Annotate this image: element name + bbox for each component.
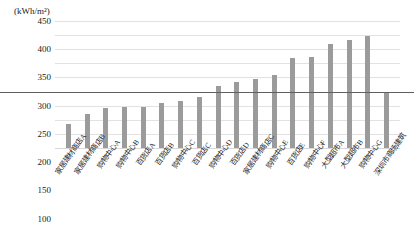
x-axis-label-slot: 大型超市B: [340, 150, 359, 232]
x-axis-label-slot: 百货店E: [284, 150, 303, 232]
bar[interactable]: [178, 101, 183, 148]
x-axis-label-slot: 购物中心C: [171, 150, 190, 232]
bar-slot: [209, 21, 228, 148]
bar-slot: [359, 21, 378, 148]
bars-group: [55, 21, 400, 148]
bar[interactable]: [216, 86, 221, 148]
bar-slot: [190, 21, 209, 148]
bar[interactable]: [85, 114, 90, 148]
x-axis-label-slot: 百货店A: [134, 150, 153, 232]
x-axis-label-slot: 购物中心D: [209, 150, 228, 232]
bar[interactable]: [103, 108, 108, 148]
bar[interactable]: [290, 58, 295, 148]
x-axis-label-slot: 百货店C: [190, 150, 209, 232]
bar-slot: [284, 21, 303, 148]
bar-slot: [153, 21, 172, 148]
bar-slot: [321, 21, 340, 148]
bar-slot: [227, 21, 246, 148]
x-axis-label-slot: 购物中心E: [265, 150, 284, 232]
bar-slot: [377, 21, 396, 148]
bar-slot: [302, 21, 321, 148]
bar-slot: [134, 21, 153, 148]
plot-area: 050100150200250300350400450: [55, 21, 400, 148]
y-axis-tick-450: 450: [38, 16, 52, 26]
bar[interactable]: [384, 92, 389, 148]
bar[interactable]: [197, 97, 202, 148]
x-axis-labels-group: 家居建材商店A家居建材商店B购物中心A购物中心B百货店A百货店B购物中心C百货店…: [55, 150, 400, 232]
x-axis-label-slot: 购物中心A: [96, 150, 115, 232]
bar[interactable]: [141, 107, 146, 148]
reference-line-200: [0, 92, 414, 93]
bar-slot: [246, 21, 265, 148]
x-axis-label-slot: 百货店D: [227, 150, 246, 232]
bar-slot: [59, 21, 78, 148]
bar-slot: [115, 21, 134, 148]
y-axis-tick-400: 400: [38, 44, 52, 54]
y-axis-unit-label: (kWh/m²): [14, 6, 50, 16]
bar[interactable]: [159, 103, 164, 148]
bar[interactable]: [309, 57, 314, 148]
x-axis-label-slot: 大型超市A: [321, 150, 340, 232]
x-axis-label-slot: 家居建材商店C: [246, 150, 265, 232]
x-axis-label-slot: 家居建材商店A: [59, 150, 78, 232]
y-axis-tick-350: 350: [38, 72, 52, 82]
bar[interactable]: [347, 40, 352, 148]
x-axis-label-slot: 百货店B: [153, 150, 172, 232]
x-axis-label-slot: 深圳市商场建筑: [377, 150, 396, 232]
y-axis-tick-150: 150: [38, 185, 52, 195]
bar-slot: [96, 21, 115, 148]
x-axis-label-slot: 购物中心G: [359, 150, 378, 232]
bar-chart: (kWh/m²) 050100150200250300350400450 家居建…: [0, 0, 414, 234]
bar-slot: [340, 21, 359, 148]
bar-slot: [78, 21, 97, 148]
y-axis-tick-200: 200: [38, 157, 52, 167]
y-axis-tick-100: 100: [38, 214, 52, 224]
y-axis-tick-300: 300: [38, 101, 52, 111]
x-axis-label-slot: 购物中心B: [115, 150, 134, 232]
bar[interactable]: [66, 124, 71, 148]
x-axis-label-slot: 购物中心F: [302, 150, 321, 232]
bar-slot: [171, 21, 190, 148]
y-axis-tick-250: 250: [38, 129, 52, 139]
bar-slot: [265, 21, 284, 148]
x-axis-label-slot: 家居建材商店B: [78, 150, 97, 232]
bar[interactable]: [253, 79, 258, 148]
bar[interactable]: [328, 44, 333, 148]
bar[interactable]: [122, 107, 127, 148]
